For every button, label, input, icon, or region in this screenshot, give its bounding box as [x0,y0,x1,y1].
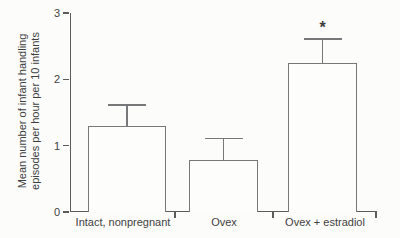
y-tick-mark-1 [63,145,69,146]
bar-ovex-estradiol [288,63,357,212]
y-axis-label-line-2: episodes per hour per 10 infants [29,32,42,190]
y-tick-mark-3 [63,12,69,13]
bar-intact-nonpregnant [88,126,166,212]
category-label-intact-nonpregnant: Intact, nonpregnant [76,216,171,228]
error-bar-stem [126,106,127,126]
y-axis-label: Mean number of infant handling episodes … [16,32,42,190]
error-bar-stem [223,139,224,160]
y-tick-label-3: 3 [54,7,60,19]
error-bar-cap [108,104,146,105]
y-tick-label-2: 2 [54,73,60,85]
y-tick-mark-2 [63,79,69,80]
y-tick-3: 3 [39,6,69,20]
error-bar-cap [205,138,243,139]
y-tick-2: 2 [39,72,69,86]
plot-area: 0 1 2 3 * [71,13,377,212]
x-tick-0 [174,212,175,218]
x-tick-1 [272,212,273,218]
error-bar-stem [322,40,323,63]
category-label-ovex: Ovex [211,216,237,228]
y-tick-mark-0 [63,211,69,212]
significance-asterisk: * [319,20,325,36]
bar-ovex [189,160,258,212]
category-label-ovex-estradiol: Ovex + estradiol [285,216,365,228]
bar-chart-figure: Mean number of infant handling episodes … [0,0,400,238]
x-tick-2 [375,212,376,218]
y-axis-label-line-1: Mean number of infant handling [16,32,29,190]
y-tick-label-0: 0 [54,206,60,218]
y-tick-label-1: 1 [54,140,60,152]
y-tick-0: 0 [39,205,69,219]
error-bar-cap [304,38,342,39]
y-axis-line [70,13,72,212]
y-tick-1: 1 [39,139,69,153]
